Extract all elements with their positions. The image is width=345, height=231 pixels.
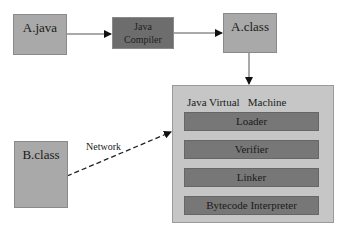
compiler-label-line1: Java: [113, 20, 173, 33]
java-compiler-box: Java Compiler: [112, 17, 174, 49]
a-class-label: A.class: [231, 19, 269, 34]
stage-loader: Loader: [184, 112, 319, 131]
stage-verifier: Verifier: [184, 140, 319, 159]
compiler-label-line2: Compiler: [113, 33, 173, 46]
stage-bytecode-interpreter: Bytecode Interpreter: [184, 196, 319, 215]
b-class-label: B.class: [22, 147, 59, 162]
stage-linker: Linker: [184, 168, 319, 187]
a-java-box: A.java: [13, 14, 67, 55]
network-label: Network: [86, 141, 121, 152]
jvm-title: Java Virtual Machine: [187, 96, 286, 108]
a-class-box: A.class: [223, 13, 277, 53]
arrow-network: [67, 132, 171, 176]
a-java-label: A.java: [23, 20, 57, 35]
jvm-box: Java Virtual Machine Loader Verifier Lin…: [172, 85, 334, 223]
b-class-box: B.class: [14, 141, 68, 208]
